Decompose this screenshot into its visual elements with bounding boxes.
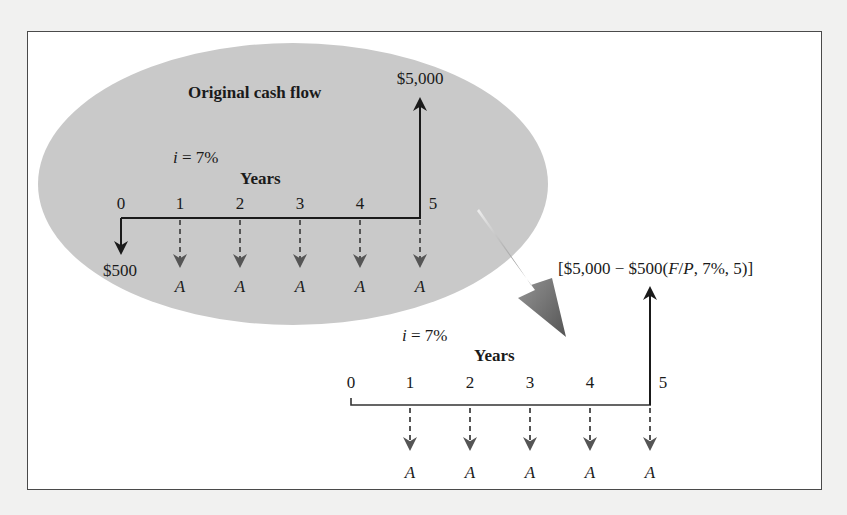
- original-annuity-label-1: A: [174, 277, 186, 296]
- equivalent-receipt-formula: [$5,000 − $500(F/P, 7%, 5)]: [558, 259, 753, 278]
- equivalent-time-axis: [351, 398, 651, 405]
- original-tick-5: 5: [429, 194, 438, 213]
- equivalent-annuity-label-1: A: [404, 463, 416, 482]
- equivalent-tick-5: 5: [659, 373, 668, 392]
- original-title: Original cash flow: [188, 83, 322, 102]
- original-axis-label: Years: [240, 169, 281, 188]
- equivalent-annuity-label-2: A: [464, 463, 476, 482]
- original-tick-2: 2: [236, 194, 245, 213]
- equivalent-tick-0: 0: [347, 373, 356, 392]
- original-annuity-label-3: A: [294, 277, 306, 296]
- equivalent-tick-3: 3: [526, 373, 535, 392]
- equivalent-tick-1: 1: [406, 373, 415, 392]
- original-tick-3: 3: [296, 194, 305, 213]
- equivalent-annuity-label-5: A: [644, 463, 656, 482]
- original-annuity-label-5: A: [414, 277, 426, 296]
- equivalent-tick-4: 4: [586, 373, 595, 392]
- equivalent-interest-rate: i = 7%: [402, 326, 447, 345]
- original-annuity-label-4: A: [354, 277, 366, 296]
- equivalent-tick-2: 2: [466, 373, 475, 392]
- receipt-label-5000: $5,000: [397, 69, 444, 88]
- equivalent-annuity-label-4: A: [584, 463, 596, 482]
- equivalent-annuity-label-3: A: [524, 463, 536, 482]
- original-tick-0: 0: [117, 194, 126, 213]
- original-interest-rate: i = 7%: [173, 148, 218, 167]
- original-cash-flow-group: Original cash flow $5,000 i = 7% Years 0…: [38, 43, 548, 325]
- original-tick-1: 1: [176, 194, 185, 213]
- original-annuity-label-2: A: [234, 277, 246, 296]
- equivalent-axis-label: Years: [474, 346, 515, 365]
- cash-flow-diagram: Original cash flow $5,000 i = 7% Years 0…: [0, 0, 847, 515]
- original-tick-4: 4: [356, 194, 365, 213]
- deposit-label-500: $500: [103, 261, 137, 280]
